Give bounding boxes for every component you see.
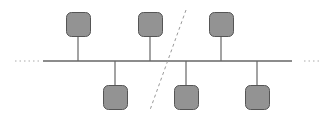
node-top-3: [210, 13, 234, 37]
node-top-1: [67, 13, 91, 37]
node-top-2: [139, 13, 163, 37]
node-bottom-2: [175, 86, 199, 110]
node-bottom-3: [246, 86, 270, 110]
bus-topology-diagram: [0, 0, 322, 116]
diagram-canvas: [0, 0, 322, 116]
node-bottom-1: [104, 86, 128, 110]
